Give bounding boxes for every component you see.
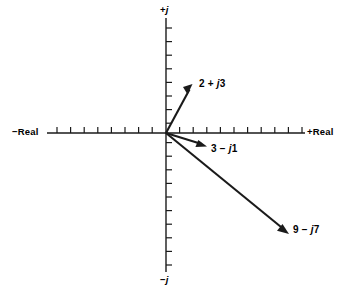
real-axis-positive-ticks: [180, 127, 302, 133]
real-part: 3: [211, 143, 217, 154]
j-symbol: j: [166, 4, 169, 15]
positive-real-axis-label: +Real: [307, 126, 334, 137]
vector-diagram-canvas: [0, 0, 343, 295]
operator: −: [220, 143, 226, 154]
positive-imaginary-axis-label: +j: [160, 4, 169, 15]
imag-part: 1: [232, 143, 238, 154]
operator: −: [302, 224, 308, 235]
complex-plane-figure: −Real +Real +j −j 2 + j3 3 − j1 9 − j7: [0, 0, 343, 295]
imag-part: 7: [314, 224, 320, 235]
vector-label-2-plus-j3: 2 + j3: [199, 78, 226, 89]
negative-imaginary-axis-label: −j: [160, 274, 169, 285]
real-part: 9: [293, 224, 299, 235]
real-part: 2: [199, 78, 205, 89]
vector-label-9-minus-j7: 9 − j7: [293, 224, 320, 235]
imaginary-axis-positive-ticks: [166, 28, 172, 123]
imaginary-axis-negative-ticks: [166, 143, 172, 265]
operator: +: [208, 78, 214, 89]
real-axis-negative-ticks: [57, 127, 152, 133]
vector-label-3-minus-j1: 3 − j1: [211, 143, 238, 154]
imag-part: 3: [220, 78, 226, 89]
j-symbol: j: [166, 274, 169, 285]
vector-arrow-2-plus-j3: [166, 84, 193, 133]
negative-real-axis-label: −Real: [12, 126, 39, 137]
vector-arrow-3-minus-j1: [166, 133, 207, 147]
